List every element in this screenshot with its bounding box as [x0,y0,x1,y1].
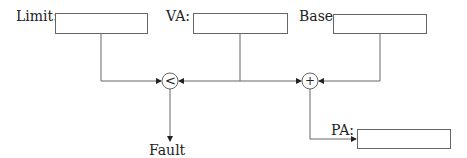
limit-field[interactable] [55,13,148,34]
limit-label: Limit: [16,8,58,24]
comparator-symbol: < [165,73,176,89]
fault-label: Fault [149,142,185,158]
base-label: Base: [299,8,338,24]
pa-field[interactable] [357,129,451,149]
base-field[interactable] [333,14,427,34]
pa-label: PA: [331,122,354,138]
va-field[interactable] [193,13,288,34]
va-label: VA: [166,8,190,24]
adder-symbol: + [305,73,315,89]
